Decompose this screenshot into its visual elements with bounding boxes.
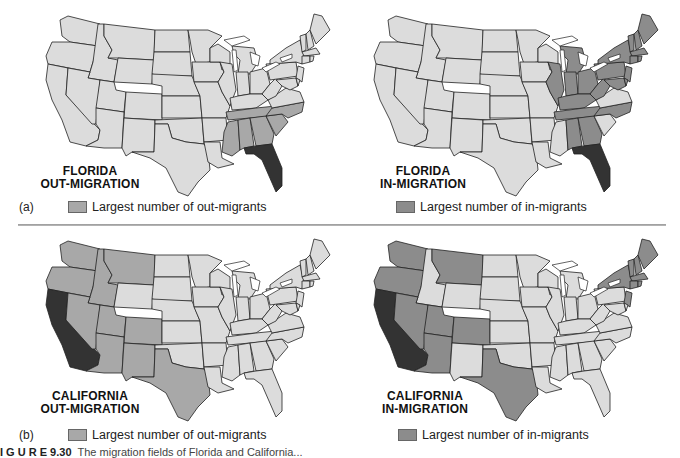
state-sd [152, 277, 192, 301]
state-nm [450, 118, 483, 156]
state-nd [154, 30, 190, 52]
legend-swatch-out [68, 201, 87, 213]
state-ut [424, 305, 454, 337]
state-wa [60, 241, 100, 271]
state-wa [60, 16, 100, 46]
state-ct [630, 56, 638, 64]
state-ut [96, 305, 126, 337]
legend-swatch-out [68, 429, 87, 441]
state-mt [432, 24, 483, 60]
state-ia [192, 287, 224, 307]
map-title: CALIFORNIA IN-MIGRATION [370, 390, 480, 416]
state-sd [480, 277, 520, 301]
figure-caption: I G U R E 9.30The migration fields of Fl… [0, 446, 303, 458]
state-wy [442, 58, 482, 84]
state-fl [572, 144, 610, 192]
state-ct [630, 281, 638, 289]
map-title: FLORIDA IN-MIGRATION [373, 165, 473, 191]
state-ri [638, 281, 642, 287]
state-ne [480, 74, 528, 96]
map-panel-california-out-migration: CALIFORNIA OUT-MIGRATION [0, 225, 340, 435]
state-co [124, 92, 162, 120]
state-ri [638, 56, 642, 62]
great-lake [552, 261, 578, 271]
state-ri [310, 281, 314, 287]
state-fl [244, 369, 282, 417]
state-ks [162, 321, 202, 343]
great-lake [224, 261, 250, 271]
state-in [564, 72, 578, 96]
state-ny [270, 40, 304, 64]
state-me [310, 239, 330, 269]
state-ks [490, 321, 530, 343]
state-sd [152, 52, 192, 76]
state-wa [388, 16, 428, 46]
state-ks [490, 96, 530, 118]
state-nm [122, 118, 155, 156]
map-title: CALIFORNIA OUT-MIGRATION [35, 390, 145, 416]
section-label-a: (a) [19, 200, 34, 214]
state-ny [598, 40, 632, 64]
state-nm [450, 343, 483, 381]
state-wy [114, 58, 154, 84]
state-ia [520, 287, 552, 307]
legend-in-migrants-a: Largest number of in-migrants [396, 200, 587, 214]
state-co [452, 92, 490, 120]
state-ia [520, 62, 552, 82]
state-ct [302, 56, 310, 64]
state-ne [152, 74, 200, 96]
legend-swatch-in [396, 201, 415, 213]
legend-out-migrants-a: Largest number of out-migrants [68, 200, 266, 214]
state-nd [482, 255, 518, 277]
state-ut [96, 80, 126, 112]
legend-out-migrants-b: Largest number of out-migrants [68, 428, 266, 442]
state-mt [104, 249, 155, 285]
state-mt [104, 24, 155, 60]
state-co [124, 317, 162, 345]
state-ny [270, 265, 304, 289]
state-ks [162, 96, 202, 118]
state-wy [114, 283, 154, 309]
state-ny [598, 265, 632, 289]
great-lake [552, 36, 578, 46]
state-ia [192, 62, 224, 82]
state-in [236, 72, 250, 96]
state-ne [152, 299, 200, 321]
map-title: FLORIDA OUT-MIGRATION [40, 165, 140, 191]
state-ri [310, 56, 314, 62]
state-fl [572, 369, 610, 417]
state-me [638, 239, 658, 269]
state-sd [480, 52, 520, 76]
state-me [638, 14, 658, 44]
legend-swatch-in [398, 429, 417, 441]
state-nd [154, 255, 190, 277]
map-panel-florida-out-migration: FLORIDA OUT-MIGRATION [0, 0, 340, 210]
state-co [452, 317, 490, 345]
state-ct [302, 281, 310, 289]
section-label-b: (b) [19, 428, 34, 442]
state-wa [388, 241, 428, 271]
state-in [236, 297, 250, 321]
great-lake [224, 36, 250, 46]
map-panel-california-in-migration: CALIFORNIA IN-MIGRATION [340, 225, 680, 435]
legend-in-migrants-b: Largest number of in-migrants [398, 428, 589, 442]
state-ut [424, 80, 454, 112]
state-ne [480, 299, 528, 321]
map-panel-florida-in-migration: FLORIDA IN-MIGRATION [340, 0, 680, 210]
state-nd [482, 30, 518, 52]
state-in [564, 297, 578, 321]
state-me [310, 14, 330, 44]
state-fl [244, 144, 282, 192]
state-mt [432, 249, 483, 285]
state-wy [442, 283, 482, 309]
state-nm [122, 343, 155, 381]
